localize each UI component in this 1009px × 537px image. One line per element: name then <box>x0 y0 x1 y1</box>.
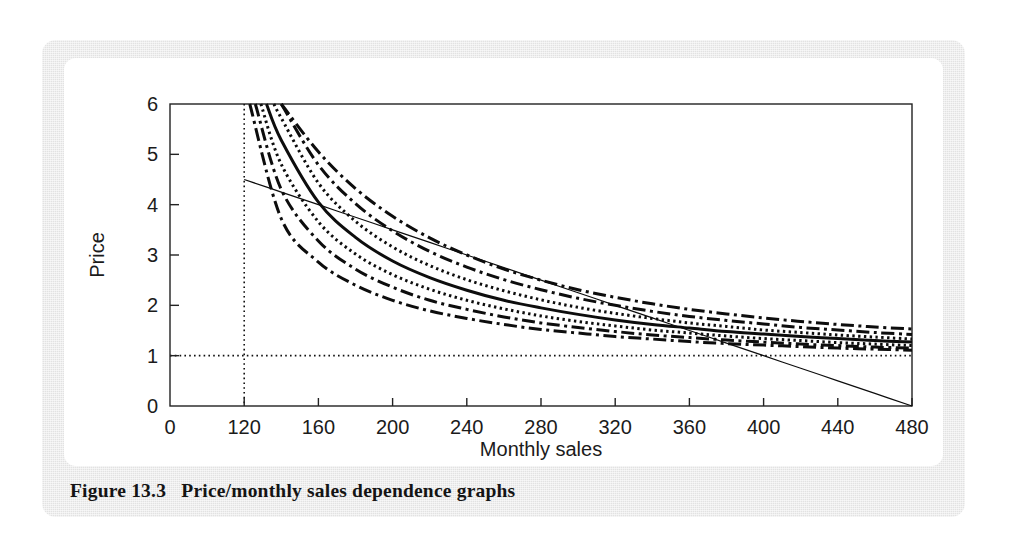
figure-caption: Figure 13.3 Price/monthly sales dependen… <box>70 480 515 502</box>
y-tick-label: 1 <box>147 345 158 367</box>
x-tick-label: 280 <box>524 416 557 438</box>
x-tick-label: 360 <box>673 416 706 438</box>
x-tick-label: 160 <box>302 416 335 438</box>
axes-group <box>170 104 912 406</box>
y-tick-label: 4 <box>147 194 158 216</box>
x-tick-label: 0 <box>164 416 175 438</box>
x-tick-label: 320 <box>599 416 632 438</box>
figure-panel: 01201602002402803203604004404800123456 M… <box>42 40 965 517</box>
curve-6-dashdot <box>255 104 912 348</box>
curve-5-dotted <box>261 104 912 346</box>
y-tick-label: 6 <box>147 93 158 115</box>
plot-card: 01201602002402803203604004404800123456 M… <box>64 58 943 466</box>
y-axis-title: Price <box>86 232 108 278</box>
y-tick-label: 5 <box>147 143 158 165</box>
curve-4-solid <box>266 104 912 342</box>
y-tick-label: 2 <box>147 294 158 316</box>
plot-frame <box>170 104 912 406</box>
x-axis-title: Monthly sales <box>480 438 602 460</box>
x-tick-label: 120 <box>228 416 261 438</box>
curve-2-dashdot <box>281 104 912 335</box>
price-monthly-sales-chart: 01201602002402803203604004404800123456 M… <box>64 58 943 466</box>
x-tick-label: 240 <box>450 416 483 438</box>
y-tick-label: 0 <box>147 395 158 417</box>
straight-line <box>244 180 912 407</box>
reference-lines-group <box>170 104 912 406</box>
x-tick-label: 200 <box>376 416 409 438</box>
x-tick-label: 480 <box>895 416 928 438</box>
y-tick-label: 3 <box>147 244 158 266</box>
x-tick-label: 440 <box>821 416 854 438</box>
x-tick-label: 400 <box>747 416 780 438</box>
curve-7-lower-dashdot <box>250 104 912 350</box>
series-group <box>244 104 912 406</box>
tick-labels-group: 01201602002402803203604004404800123456 <box>147 93 929 438</box>
